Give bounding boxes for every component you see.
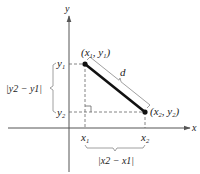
y-axis-label: y xyxy=(64,3,70,14)
vertical-distance-label: |y2 − y1| xyxy=(6,83,42,94)
point-2 xyxy=(142,109,147,114)
point-1-label: (x1, y1) xyxy=(81,46,110,59)
d-bracket xyxy=(87,57,150,108)
vertical-brace xyxy=(50,63,56,113)
point-1 xyxy=(82,61,87,66)
y1-tick-label: y1 xyxy=(56,57,65,70)
horizontal-distance-label: |x2 − x1| xyxy=(98,155,134,166)
d-label: d xyxy=(120,66,126,78)
distance-segment xyxy=(85,64,145,112)
x1-tick-label: x1 xyxy=(80,131,89,144)
y2-tick-label: y2 xyxy=(56,106,66,119)
x2-tick-label: x2 xyxy=(140,131,150,144)
right-angle-marker xyxy=(85,106,91,112)
x-axis-label: x xyxy=(191,122,197,133)
distance-diagram: x y d (x1, y1) (x2, y2) x1 x2 y1 y2 |y2 … xyxy=(0,0,200,174)
horizontal-brace xyxy=(85,145,145,151)
point-2-label: (x2, y2) xyxy=(150,105,179,118)
